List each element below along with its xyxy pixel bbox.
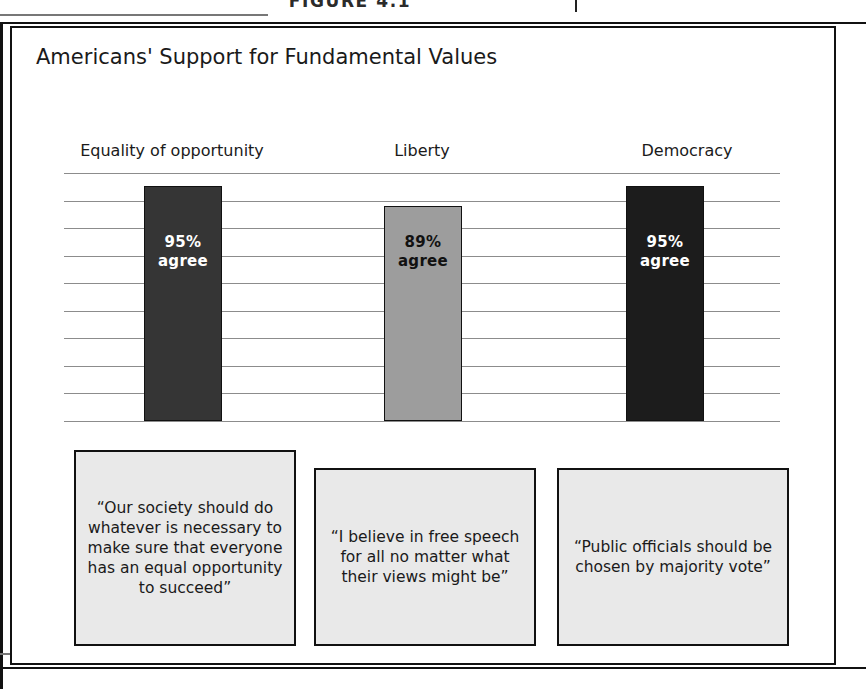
bar: 95%agree (626, 186, 704, 421)
header-rule-full (0, 22, 866, 24)
chart-bars-layer: Equality of opportunity95%agree“Our soci… (12, 28, 838, 667)
page-spine-left (0, 22, 3, 689)
bar-category-label: Democracy (572, 141, 802, 160)
bar-category-label: Liberty (312, 141, 532, 160)
bar-value-label: 95% (647, 233, 684, 252)
bar-value-suffix: agree (158, 252, 208, 271)
footer-rule-full (0, 667, 866, 669)
quote-text: “Public officials should be chosen by ma… (569, 537, 777, 577)
quote-box: “Our society should do whatever is neces… (74, 450, 296, 646)
header-rule-short (0, 14, 268, 16)
figure-caption: FIGURE 4.1 (170, 0, 530, 11)
quote-text: “I believe in free speech for all no mat… (326, 527, 524, 587)
page-spine-mark (575, 0, 577, 12)
bar-chart-plot: Equality of opportunity95%agree“Our soci… (12, 28, 838, 667)
bar-value-suffix: agree (640, 252, 690, 271)
bar-value-label: 89% (405, 233, 442, 252)
bar: 95%agree (144, 186, 222, 421)
quote-box: “Public officials should be chosen by ma… (557, 468, 789, 646)
bar-category-label: Equality of opportunity (42, 141, 302, 160)
quote-box: “I believe in free speech for all no mat… (314, 468, 536, 646)
bar-value-suffix: agree (398, 252, 448, 271)
bar: 89%agree (384, 206, 462, 421)
page-root: FIGURE 4.1 Americans' Support for Fundam… (0, 0, 866, 689)
bar-value-label: 95% (165, 233, 202, 252)
figure-frame: Americans' Support for Fundamental Value… (10, 26, 836, 665)
quote-text: “Our society should do whatever is neces… (86, 498, 284, 599)
